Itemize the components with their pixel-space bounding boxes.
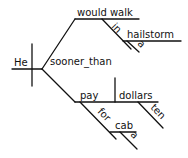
upper-object-word: hailstorm — [127, 29, 174, 40]
sentence-diagram: He would walk in hailstorm a sooner_than… — [0, 0, 188, 158]
lower-preposition-line — [80, 102, 116, 139]
lower-object-word: dollars — [119, 90, 152, 101]
conjunction-word: sooner_than — [50, 56, 112, 68]
upper-preposition-word: in — [110, 21, 124, 35]
upper-predicate-word: would walk — [77, 7, 133, 18]
lower-predicate-word: pay — [80, 90, 98, 101]
lower-prep-object-word: cab — [115, 120, 133, 131]
lower-branch-line — [42, 69, 75, 102]
lower-object-modifier-word: ten — [149, 102, 168, 121]
subject-word: He — [14, 57, 28, 68]
